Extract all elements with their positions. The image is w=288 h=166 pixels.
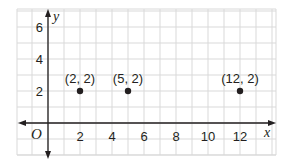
point-label: (12, 2)	[221, 71, 259, 86]
data-point	[237, 88, 243, 94]
x-tick-label: 10	[201, 129, 215, 144]
data-point	[77, 88, 83, 94]
y-tick-label: 6	[36, 20, 43, 35]
y-tick-label: 2	[36, 84, 43, 99]
x-axis-label: x	[263, 125, 271, 140]
x-tick-label: 12	[233, 129, 247, 144]
point-label: (2, 2)	[65, 71, 95, 86]
x-tick-label: 8	[172, 129, 179, 144]
y-tick-label: 4	[36, 52, 43, 67]
y-axis-up-arrow	[45, 9, 51, 17]
y-axis-label: y	[51, 9, 60, 24]
data-point	[125, 88, 131, 94]
x-tick-label: 2	[76, 129, 83, 144]
origin-label: O	[31, 126, 42, 142]
x-axis-left-arrow	[18, 120, 26, 126]
x-tick-label: 4	[108, 129, 115, 144]
coordinate-plane: 24681012246 x y O (2, 2)(5, 2)(12, 2)	[0, 0, 288, 166]
point-label: (5, 2)	[113, 71, 143, 86]
x-tick-label: 6	[140, 129, 147, 144]
